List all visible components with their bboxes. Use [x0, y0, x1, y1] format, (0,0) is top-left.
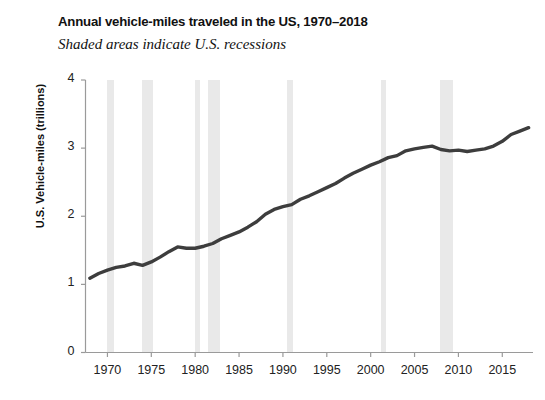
x-tick-label: 2015 [479, 363, 525, 377]
x-tick-label: 2005 [392, 363, 438, 377]
x-tick-label: 1990 [260, 363, 306, 377]
chart-svg [0, 0, 545, 400]
y-tick-label: 1 [53, 275, 75, 289]
x-tick-label: 1980 [172, 363, 218, 377]
axes-group [81, 80, 533, 357]
y-tick-label: 3 [53, 139, 75, 153]
x-tick-label: 1995 [304, 363, 350, 377]
x-tick-label: 2000 [348, 363, 394, 377]
x-tick-label: 1975 [128, 363, 174, 377]
x-tick-label: 2010 [435, 363, 481, 377]
x-tick-label: 1985 [216, 363, 262, 377]
data-line-vehicle-miles [90, 128, 529, 279]
y-tick-label: 4 [53, 71, 75, 85]
data-line-group [90, 128, 529, 279]
x-tick-label: 1970 [84, 363, 130, 377]
y-tick-label: 2 [53, 207, 75, 221]
y-tick-label: 0 [53, 344, 75, 358]
chart-screenshot: Annual vehicle-miles traveled in the US,… [0, 0, 545, 400]
plot-area: U.S. Vehicle-miles (trillions) 01234 197… [0, 0, 545, 400]
